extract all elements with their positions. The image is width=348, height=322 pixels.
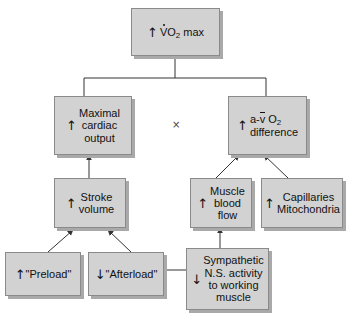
edge-capillaries-to-avo2	[264, 155, 288, 178]
node-afterload-label: "Afterload"	[106, 268, 158, 280]
node-cardiac-output-label: Maximal cardiac output	[79, 107, 120, 144]
up-arrow-icon: ↑	[237, 119, 248, 132]
node-sympathetic-label: Sympathetic N.S. activity to working mus…	[203, 254, 264, 303]
node-preload[interactable]: ↑ "Preload"	[5, 252, 81, 296]
node-vo2max-label: VO2 max	[160, 26, 204, 39]
node-muscle-blood-flow[interactable]: ↑ Muscle blood flow	[190, 178, 252, 228]
up-arrow-icon: ↑	[264, 197, 275, 210]
node-afterload[interactable]: ↓ "Afterload"	[88, 252, 164, 296]
up-arrow-icon: ↑	[66, 119, 77, 132]
node-preload-label: "Preload"	[26, 268, 72, 280]
node-capillaries-mitochondria-label: Capillaries Mitochondria	[277, 191, 340, 216]
multiplication-operator: ×	[172, 120, 180, 130]
node-muscle-blood-flow-label: Muscle blood flow	[210, 185, 245, 222]
node-stroke-volume[interactable]: ↑ Stroke volume	[54, 178, 126, 228]
node-avo2-difference-label: a-v O2difference	[250, 113, 298, 138]
up-arrow-icon: ↑	[66, 197, 77, 210]
node-avo2-difference[interactable]: ↑ a-v O2difference	[228, 96, 307, 155]
edge-muscle-blood-flow-to-avo2	[216, 155, 239, 178]
edge-bus-vo2max	[84, 57, 266, 96]
down-arrow-icon: ↓	[191, 273, 202, 286]
node-cardiac-output[interactable]: ↑ Maximal cardiac output	[54, 96, 132, 155]
up-arrow-icon: ↑	[147, 26, 158, 39]
down-arrow-icon: ↓	[95, 268, 106, 281]
up-arrow-icon: ↑	[15, 268, 26, 281]
node-vo2max[interactable]: ↑ VO2 max	[131, 8, 220, 56]
node-capillaries-mitochondria[interactable]: ↑ Capillaries Mitochondria	[261, 178, 343, 228]
node-sympathetic[interactable]: ↓ Sympathetic N.S. activity to working m…	[186, 248, 269, 310]
node-stroke-volume-label: Stroke volume	[79, 191, 114, 216]
edge-preload-to-stroke-volume	[48, 230, 73, 252]
diagram-canvas: × ↑ VO2 max ↑ Maximal cardiac output ↑ a…	[0, 0, 348, 322]
edge-afterload-to-stroke-volume	[108, 230, 131, 252]
up-arrow-icon: ↑	[197, 197, 208, 210]
